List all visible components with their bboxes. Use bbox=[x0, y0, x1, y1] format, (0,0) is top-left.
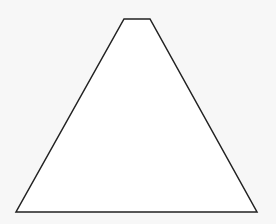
diagram-canvas bbox=[0, 0, 276, 224]
